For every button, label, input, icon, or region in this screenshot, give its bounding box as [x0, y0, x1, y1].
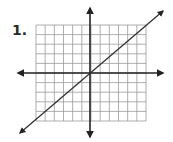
coordinate-graph	[0, 0, 173, 142]
plotted-line-y-equals-x	[20, 11, 163, 133]
